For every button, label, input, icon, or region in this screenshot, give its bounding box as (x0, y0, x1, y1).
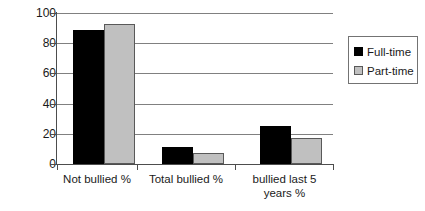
bar-chart: 100 80 60 40 20 0 (0, 0, 425, 211)
x-tick-mark (137, 164, 138, 170)
x-tick-mark (235, 164, 236, 170)
legend-swatch-icon (354, 66, 363, 75)
legend-item-part-time: Part-time (354, 61, 413, 80)
x-axis-label: Total bullied % (136, 172, 236, 186)
legend-swatch-icon (354, 47, 363, 56)
x-axis: Not bullied % Total bullied % bullied la… (0, 0, 425, 211)
legend-label: Full-time (367, 46, 411, 58)
x-tick-mark (333, 164, 334, 170)
legend: Full-time Part-time (348, 36, 418, 84)
x-tick-mark (57, 164, 58, 170)
x-axis-label: bullied last 5 years % (237, 172, 332, 200)
x-axis-label: Not bullied % (47, 172, 147, 186)
legend-label: Part-time (367, 65, 414, 77)
legend-item-full-time: Full-time (354, 42, 413, 61)
